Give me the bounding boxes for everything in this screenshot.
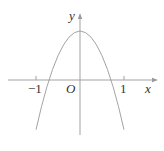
function-graph: y x O −1 1 (0, 0, 164, 151)
tick-label-pos1: 1 (120, 81, 127, 96)
y-axis-arrow-icon (78, 13, 82, 19)
x-axis-label: x (144, 81, 151, 96)
origin-label: O (66, 81, 76, 96)
tick-label-neg1: −1 (28, 81, 42, 96)
x-axis-arrow-icon (152, 78, 158, 82)
y-axis-label: y (67, 8, 75, 23)
